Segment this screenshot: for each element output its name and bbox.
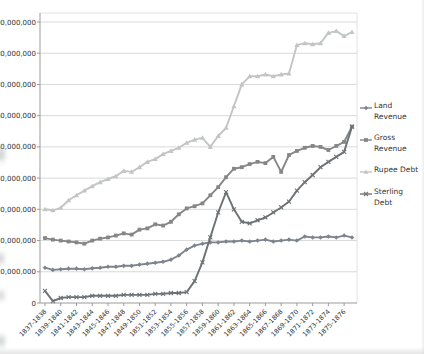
data-point-marker	[232, 167, 236, 171]
data-point-marker	[224, 239, 229, 244]
rupee-debt-marker-icon	[359, 168, 373, 176]
data-point-marker	[334, 235, 339, 240]
data-point-marker	[137, 262, 142, 267]
data-point-marker	[153, 260, 158, 265]
data-point-marker	[350, 235, 355, 240]
data-point-marker	[232, 239, 237, 244]
scan-edge-shadow	[0, 347, 424, 354]
data-point-marker	[264, 161, 268, 165]
data-point-marker	[114, 234, 118, 238]
y-axis-label: 30,000,000	[0, 206, 36, 214]
data-point-marker	[145, 226, 149, 230]
data-point-marker	[248, 162, 252, 166]
sterling-debt-marker-icon	[359, 190, 373, 198]
data-point-marker	[216, 185, 220, 189]
data-point-marker	[185, 206, 189, 210]
data-point-marker	[129, 264, 134, 269]
data-point-marker	[82, 242, 86, 246]
data-point-marker	[82, 267, 87, 272]
data-point-marker	[349, 29, 354, 34]
data-point-marker	[200, 241, 205, 246]
y-axis-label: 0	[32, 300, 36, 308]
y-axis-label: 50,000,000	[0, 143, 36, 151]
series-line	[45, 127, 352, 244]
data-point-marker	[98, 237, 102, 241]
data-point-marker	[43, 236, 47, 240]
data-point-marker	[231, 104, 236, 109]
data-point-marker	[201, 202, 205, 206]
data-point-marker	[247, 239, 252, 244]
data-point-marker	[75, 241, 79, 245]
line-chart-figure: 010,000,00020,000,00030,000,00040,000,00…	[0, 0, 424, 354]
data-point-marker	[271, 239, 276, 244]
data-point-marker	[311, 144, 315, 148]
data-point-marker	[106, 236, 110, 240]
series-rupee-debt	[42, 28, 354, 212]
legend-label: Rupee Debt	[374, 165, 418, 176]
data-point-marker	[271, 155, 275, 159]
series-line	[45, 127, 352, 302]
data-point-marker	[74, 266, 79, 271]
data-point-marker	[342, 233, 347, 238]
data-point-marker	[121, 264, 126, 269]
data-point-marker	[240, 165, 244, 169]
y-axis-label: 20,000,000	[0, 237, 36, 245]
legend-item-gross-revenue: Gross Revenue	[359, 133, 421, 154]
legend-label: Gross Revenue	[374, 133, 421, 154]
data-point-marker	[66, 266, 71, 271]
legend-label: Land Revenue	[374, 101, 421, 122]
data-point-marker	[161, 259, 166, 264]
data-point-marker	[169, 220, 173, 224]
y-axis-label: 80,000,000	[0, 50, 36, 58]
legend-item-sterling-debt: Sterling Debt	[359, 187, 421, 208]
data-point-marker	[256, 160, 260, 164]
y-axis-label: 60,000,000	[0, 112, 36, 120]
data-point-marker	[224, 175, 228, 179]
data-point-marker	[319, 145, 323, 149]
data-point-marker	[287, 153, 291, 157]
data-point-marker	[303, 146, 307, 150]
data-point-marker	[342, 140, 346, 144]
data-point-marker	[295, 149, 299, 153]
data-point-marker	[263, 237, 268, 242]
data-point-marker	[106, 264, 111, 269]
data-point-marker	[90, 266, 95, 271]
data-point-marker	[255, 238, 260, 243]
data-point-marker	[114, 264, 119, 269]
series-sterling-debt	[43, 125, 354, 304]
screenshot-root: { "chart_data": { "type": "line", "title…	[0, 0, 424, 354]
legend-marker	[364, 138, 368, 142]
data-point-marker	[161, 224, 165, 228]
data-point-marker	[177, 212, 181, 216]
series-land-revenue	[43, 233, 355, 272]
data-point-marker	[145, 261, 150, 266]
data-point-marker	[67, 240, 71, 244]
y-axis-label: 90,000,000	[0, 19, 36, 27]
data-point-marker	[59, 239, 63, 243]
data-point-marker	[98, 265, 103, 270]
data-point-marker	[310, 235, 315, 240]
data-point-marker	[122, 231, 126, 235]
data-point-marker	[279, 238, 284, 243]
legend-label: Sterling Debt	[374, 187, 421, 208]
data-point-marker	[193, 204, 197, 208]
data-point-marker	[223, 125, 228, 130]
data-point-marker	[326, 148, 330, 152]
data-point-marker	[287, 237, 292, 242]
data-point-marker	[239, 238, 244, 243]
data-point-marker	[90, 239, 94, 243]
data-point-marker	[51, 238, 55, 242]
data-point-marker	[334, 144, 338, 148]
land-revenue-marker-icon	[359, 104, 373, 112]
data-point-marker	[326, 234, 331, 239]
y-axis-label: 40,000,000	[0, 175, 36, 183]
legend-marker	[364, 106, 368, 110]
data-point-marker	[43, 265, 48, 270]
data-point-marker	[58, 267, 63, 272]
data-point-marker	[279, 170, 283, 174]
data-point-marker	[138, 228, 142, 232]
data-point-marker	[153, 222, 157, 226]
data-point-marker	[130, 233, 134, 237]
chart-legend: Land Revenue Gross Revenue Rupee Debt St…	[359, 101, 421, 208]
series-gross-revenue	[43, 125, 354, 246]
